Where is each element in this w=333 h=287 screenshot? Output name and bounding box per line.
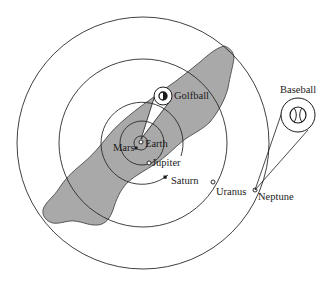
- earth-label: Earth: [145, 138, 168, 149]
- earth-marker: [139, 140, 143, 144]
- uranus-marker: [211, 180, 215, 184]
- golfball-icon: [159, 92, 167, 100]
- golfball-label: Golfball: [174, 90, 209, 101]
- baseball-ray-right: [255, 130, 308, 190]
- uranus-label: Uranus: [216, 186, 246, 197]
- jupiter-marker: [147, 161, 151, 165]
- neptune-label: Neptune: [258, 191, 294, 202]
- landmass-shape: [43, 46, 234, 225]
- baseball-label: Baseball: [280, 84, 316, 95]
- saturn-label: Saturn: [171, 175, 199, 186]
- mars-label: Mars: [113, 142, 135, 153]
- mars-marker: [135, 147, 138, 150]
- solar-system-scale-diagram: Earth Mars Jupiter Saturn Uranus Neptune…: [0, 0, 333, 287]
- jupiter-label: Jupiter: [152, 157, 181, 168]
- baseball-ray-left: [255, 112, 282, 190]
- saturn-marker: [164, 176, 167, 179]
- baseball-icon: [290, 107, 306, 123]
